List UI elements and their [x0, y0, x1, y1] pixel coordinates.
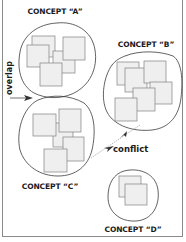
- concept-c-label: CONCEPT “C”: [22, 182, 79, 191]
- concept-a-square: [63, 37, 85, 60]
- concept-a-group: [19, 23, 96, 98]
- concept-d-group: [108, 170, 158, 221]
- concept-a-square: [40, 63, 62, 86]
- concept-b-square: [144, 61, 166, 83]
- concept-c-square: [44, 149, 67, 172]
- concept-d-label: CONCEPT “D”: [105, 225, 162, 234]
- overlap-arrow-icon: [10, 95, 33, 101]
- concept-b-label: CONCEPT “B”: [118, 40, 174, 49]
- concept-c-square: [59, 109, 81, 132]
- concept-b-group: [103, 52, 181, 131]
- overlap-label: overlap: [5, 61, 14, 95]
- concept-b-square: [115, 98, 137, 121]
- concept-a-label: CONCEPT “A”: [28, 7, 83, 16]
- concept-d-square: [125, 184, 147, 205]
- concept-diagram: [0, 0, 186, 242]
- conflict-label: conflict: [113, 144, 148, 154]
- concept-c-group: [19, 96, 94, 176]
- concept-c-square: [33, 114, 56, 136]
